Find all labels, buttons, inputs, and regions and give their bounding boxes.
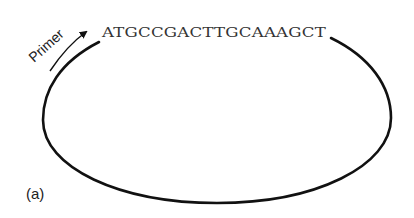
primer-label: Primer <box>25 26 67 66</box>
dna-sequence: ATGCCGACTTGCAAAGCT <box>101 24 326 40</box>
diagram-svg: Primer ATGCCGACTTGCAAAGCT (a) <box>0 0 414 218</box>
plasmid-diagram: Primer ATGCCGACTTGCAAAGCT (a) <box>0 0 414 218</box>
panel-label: (a) <box>26 185 44 202</box>
dna-circle <box>43 38 391 203</box>
